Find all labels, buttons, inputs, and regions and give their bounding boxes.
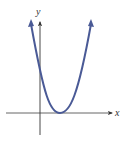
y-axis-label: y [35,6,41,17]
curve-arrow-right-icon [88,19,94,27]
x-axis-label: x [114,107,120,118]
parabola-graph: y x [0,0,120,141]
curve-arrow-left-icon [28,19,34,27]
